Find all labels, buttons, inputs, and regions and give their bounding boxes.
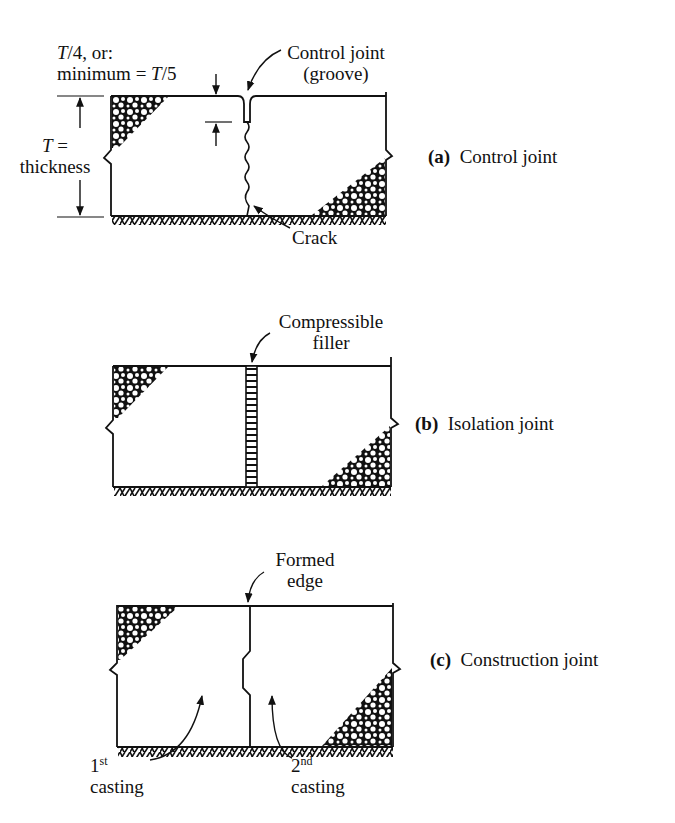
crack-label: Crack <box>292 228 337 249</box>
edge-line1: Formed <box>275 549 334 570</box>
formed-edge-label: Formed edge <box>265 550 345 592</box>
caption-text: Construction joint <box>461 649 599 670</box>
groove-depth-label: T/4, or: minimum = T/5 <box>57 43 176 85</box>
second-sup: nd <box>301 754 313 768</box>
caption-b: (b) Isolation joint <box>415 414 554 435</box>
first-num: 1 <box>90 755 100 776</box>
second-word: casting <box>291 776 345 797</box>
first-casting-label: 1st casting <box>90 755 144 798</box>
caption-a: (a) Control joint <box>428 147 557 168</box>
depth-line2-suffix: /5 <box>162 63 177 84</box>
second-num: 2 <box>291 755 301 776</box>
edge-line2: edge <box>287 570 323 591</box>
var-t: T <box>151 63 162 84</box>
thickness-label: T = thickness <box>14 136 96 178</box>
filler-line2: filler <box>313 332 350 353</box>
first-word: casting <box>90 776 144 797</box>
groove-line1: Control joint <box>287 42 385 63</box>
depth-line2-prefix: minimum = <box>57 63 151 84</box>
thickness-eq: = <box>53 135 68 156</box>
compressible-filler-label: Compressible filler <box>266 312 396 354</box>
caption-text: Isolation joint <box>448 413 554 434</box>
depth-line1: /4, or: <box>68 42 113 63</box>
caption-text: Control joint <box>460 146 558 167</box>
var-t: T <box>42 135 53 156</box>
thickness-word: thickness <box>20 156 91 177</box>
filler-line1: Compressible <box>279 311 384 332</box>
caption-letter: (c) <box>430 649 451 670</box>
second-casting-label: 2nd casting <box>291 755 345 798</box>
joint-diagrams <box>0 0 675 823</box>
panel-c-construction-joint <box>110 572 400 760</box>
var-t: T <box>57 42 68 63</box>
caption-c: (c) Construction joint <box>430 650 598 671</box>
first-sup: st <box>100 754 108 768</box>
groove-line2: (groove) <box>303 63 368 84</box>
caption-letter: (a) <box>428 146 450 167</box>
caption-letter: (b) <box>415 413 438 434</box>
control-joint-groove-label: Control joint (groove) <box>276 43 396 85</box>
panel-b-isolation-joint <box>106 333 398 496</box>
